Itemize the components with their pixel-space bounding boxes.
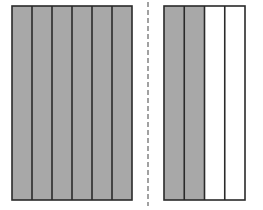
left-model-part-shaded: [12, 6, 32, 200]
right-model-part-shaded: [164, 6, 184, 200]
right-model-part-unshaded: [225, 6, 245, 200]
left-model-part-shaded: [92, 6, 112, 200]
left-model-part-shaded: [32, 6, 52, 200]
fraction-diagram: [0, 0, 263, 210]
left-model-part-shaded: [52, 6, 72, 200]
right-model-part-shaded: [184, 6, 204, 200]
left-model-part-shaded: [112, 6, 132, 200]
left-model-part-shaded: [72, 6, 92, 200]
right-model-part-unshaded: [205, 6, 225, 200]
